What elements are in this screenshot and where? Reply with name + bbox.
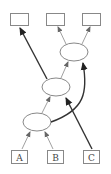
output-box-2: [47, 14, 65, 26]
upper-node: [60, 43, 88, 61]
output-box-1: [11, 14, 29, 26]
output-box-3: [83, 14, 101, 26]
edge-c-to-middle: [66, 98, 92, 149]
edge-upper-to-out3: [82, 27, 90, 44]
input-label-a: A: [15, 153, 23, 163]
edge-a-to-lower: [22, 132, 30, 149]
diagram-canvas: A B C: [0, 0, 111, 174]
input-label-b: B: [52, 153, 59, 163]
lower-node: [23, 113, 51, 131]
edge-upper-to-out2: [58, 27, 66, 44]
edge-middle-to-out1: [20, 28, 47, 79]
input-label-c: C: [88, 153, 95, 163]
middle-node: [42, 78, 70, 96]
edge-b-to-lower: [45, 132, 53, 149]
edge-middle-to-upper: [61, 62, 68, 78]
edge-lower-to-middle: [42, 97, 50, 113]
